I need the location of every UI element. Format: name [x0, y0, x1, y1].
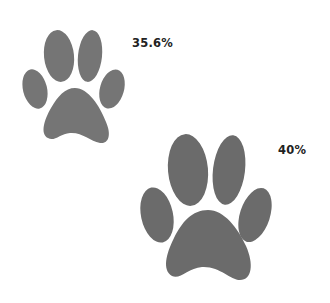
main-pad [166, 210, 251, 280]
paw-print-icon-small [18, 26, 130, 146]
paw-print-icon-large [136, 130, 276, 285]
percentage-label-large: 40% [278, 143, 306, 157]
toe-top-right [209, 133, 249, 206]
toe-side-right [95, 66, 129, 111]
main-pad [44, 88, 109, 143]
toe-top-left [165, 132, 211, 207]
toe-top-left [41, 29, 76, 84]
toe-side-left [19, 67, 52, 112]
toe-top-right [75, 29, 104, 83]
toe-side-left [136, 184, 178, 245]
percentage-label-small: 35.6% [132, 36, 173, 50]
